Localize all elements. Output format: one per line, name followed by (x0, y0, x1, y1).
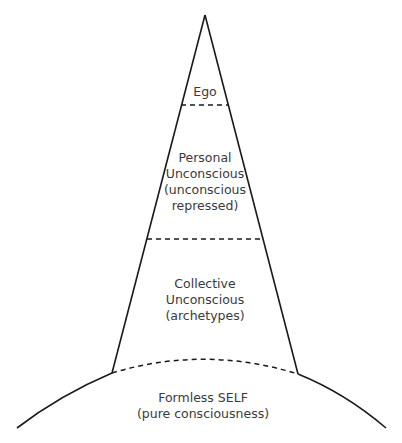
personal-line-1: Personal (164, 150, 246, 166)
collective-line-2: Unconscious (165, 292, 244, 308)
label-personal-unconscious: Personal Unconscious (unconscious repres… (164, 150, 246, 214)
psyche-layers-diagram: Ego Personal Unconscious (unconscious re… (0, 0, 402, 443)
collective-line-3: (archetypes) (165, 308, 244, 324)
label-formless-self: Formless SELF (pure consciousness) (137, 390, 269, 422)
self-arc-right (298, 374, 386, 428)
self-line-1: Formless SELF (137, 390, 269, 406)
self-boundary-dashed-arc (112, 359, 298, 374)
collective-line-1: Collective (165, 276, 244, 292)
self-line-2: (pure consciousness) (137, 406, 269, 422)
label-collective-unconscious: Collective Unconscious (archetypes) (165, 276, 244, 324)
ego-text: Ego (193, 84, 216, 100)
personal-line-3: (unconscious (164, 182, 246, 198)
personal-line-4: repressed) (164, 198, 246, 214)
label-ego: Ego (193, 84, 216, 100)
personal-line-2: Unconscious (164, 166, 246, 182)
diagram-shapes (0, 0, 402, 443)
self-arc-left (17, 373, 112, 428)
